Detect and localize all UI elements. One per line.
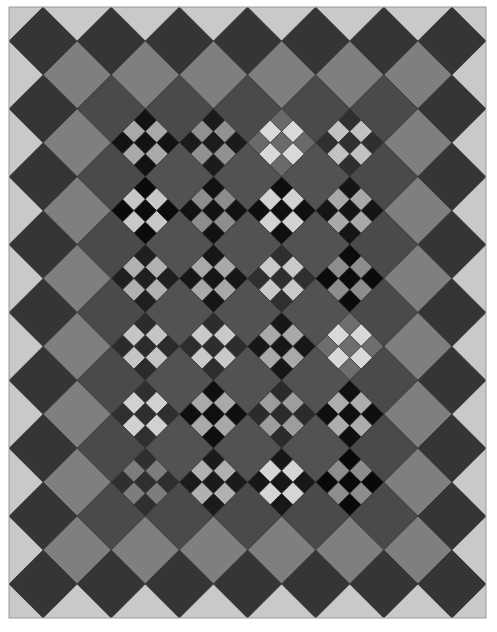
quilt-illustration (0, 0, 497, 632)
quilt-tiles (9, 7, 486, 618)
quilt-pattern (0, 0, 497, 632)
